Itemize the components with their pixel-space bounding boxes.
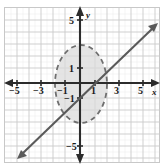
y-tick-label-neg5: −5 [66,142,77,152]
x-tick-label-5: 5 [138,86,143,96]
x-axis-name: x [152,88,157,97]
y-tick-label-5: 5 [69,16,74,26]
graph-figure: −5 −3 −1 1 3 5 5 1 −1 −5 y x [0,0,164,168]
x-tick-label-neg3: −3 [33,86,44,96]
y-tick-label-neg1: −1 [64,94,75,104]
y-tick-label-1: 1 [69,64,74,74]
x-tick-label-neg5: −5 [9,86,20,96]
x-tick-label-3: 3 [114,86,119,96]
x-tick-label-1: 1 [91,86,96,96]
coordinate-plane-svg [0,0,164,168]
y-axis-name: y [86,11,90,20]
